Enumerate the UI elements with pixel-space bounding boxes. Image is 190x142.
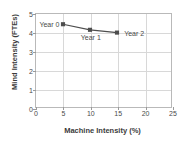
data-point-label: Year 1 [81,34,101,41]
plot-area: 0123450510152025 Year 0Year 1Year 2 [35,13,172,108]
x-tick-label: 10 [87,110,95,117]
series-line-group [36,14,171,107]
x-tick-mark [36,107,37,110]
data-point-marker [88,28,92,32]
x-tick-label: 20 [142,110,150,117]
series-markers [61,22,119,34]
x-tick-label: 5 [61,110,65,117]
x-axis-title: Machine Intensity (%) [30,126,175,135]
x-tick-mark [118,107,119,110]
data-point-label: Year 2 [124,30,144,37]
x-tick-label: 0 [34,110,38,117]
data-point-marker [115,31,119,35]
line-chart: Mind Intensity (FTEs) 0123450510152025 Y… [0,0,190,142]
x-tick-label: 25 [169,110,177,117]
x-tick-mark [63,107,64,110]
x-tick-mark [146,107,147,110]
data-point-label: Year 0 [39,21,59,28]
x-tick-mark [91,107,92,110]
data-point-marker [61,22,65,26]
y-axis-title: Mind Intensity (FTEs) [9,4,21,100]
x-tick-mark [173,107,174,110]
x-tick-label: 15 [114,110,122,117]
